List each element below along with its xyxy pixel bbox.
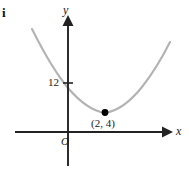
vertex-point-marker [102, 109, 109, 116]
vertex-coordinate-label: (2, 4) [91, 118, 115, 129]
coordinate-plot [0, 0, 189, 169]
parabola-curve [32, 29, 170, 113]
y-axis-label: y [63, 4, 68, 16]
origin-label: O [61, 136, 69, 147]
y-intercept-tick-label: 12 [48, 77, 59, 88]
graph-figure: i y x O 12 (2, 4) [0, 0, 189, 169]
x-axis-arrowhead [162, 127, 173, 138]
x-axis-label: x [176, 125, 181, 137]
